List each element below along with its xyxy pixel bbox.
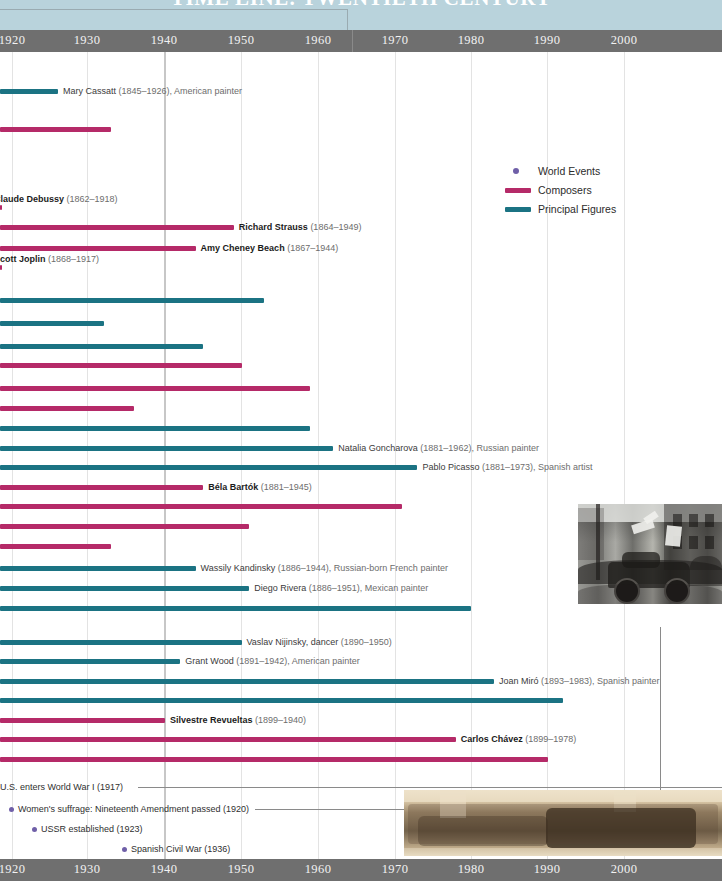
lifespan-bar[interactable] — [0, 524, 249, 529]
lifespan-bar[interactable] — [0, 321, 104, 326]
lifespan-bar[interactable] — [0, 344, 203, 349]
row-label: Pablo Picasso (1881–1973), Spanish artis… — [422, 460, 592, 474]
lifespan-bar[interactable] — [0, 127, 111, 132]
row-label-dates: (1867–1944) — [287, 243, 338, 253]
header-outline-box — [0, 9, 348, 31]
axis-tick-1980: 1980 — [458, 862, 485, 877]
timeline-row[interactable] — [0, 122, 722, 136]
row-label-dates: (1868–1917) — [48, 254, 99, 264]
timeline-row[interactable] — [0, 752, 722, 766]
timeline-page: TIME LINE: TWENTIETH CENTURY 19201930194… — [0, 0, 722, 885]
row-label: Scott Joplin (1868–1917) — [0, 252, 99, 266]
axis-tick-1950: 1950 — [228, 862, 255, 877]
legend: World EventsComposersPrincipal Figures — [505, 162, 685, 219]
lifespan-bar[interactable] — [0, 606, 471, 611]
row-label-name: Béla Bartók — [208, 482, 261, 492]
lifespan-bar[interactable] — [0, 737, 456, 742]
timeline-row[interactable]: Natalia Goncharova (1881–1962), Russian … — [0, 441, 722, 455]
timeline-row[interactable] — [0, 381, 722, 395]
world-event-dot — [122, 847, 127, 852]
row-label-name: Amy Cheney Beach — [201, 243, 288, 253]
axis-tick-1970: 1970 — [382, 862, 409, 877]
row-label: Natalia Goncharova (1881–1962), Russian … — [338, 441, 539, 455]
timeline-row[interactable]: Amy Cheney Beach (1867–1944) — [0, 241, 722, 255]
legend-item[interactable]: World Events — [505, 162, 685, 181]
timeline-row[interactable]: Béla Bartók (1881–1945) — [0, 480, 722, 494]
timeline-row[interactable] — [0, 339, 722, 353]
timeline-row[interactable]: Carlos Chávez (1899–1978) — [0, 732, 722, 746]
timeline-row[interactable]: Vaslav Nijinsky, dancer (1890–1950) — [0, 635, 722, 649]
timeline-row[interactable] — [0, 358, 722, 372]
lifespan-bar[interactable] — [0, 465, 417, 470]
row-label: Mary Cassatt (1845–1926), American paint… — [63, 84, 242, 98]
lifespan-bar[interactable] — [0, 679, 494, 684]
group-portrait-photo — [404, 790, 722, 856]
lifespan-bar[interactable] — [0, 718, 165, 723]
lifespan-bar[interactable] — [0, 485, 203, 490]
lifespan-bar[interactable] — [0, 757, 548, 762]
axis-top: 192019301940195019601970198019902000 — [0, 30, 722, 52]
axis-tick-1920: 1920 — [0, 862, 25, 877]
lifespan-bar[interactable] — [0, 225, 234, 230]
row-label: Diego Rivera (1886–1951), Mexican painte… — [254, 581, 428, 595]
world-event-leader-line — [138, 787, 722, 788]
row-label-dates: (1886–1951), Mexican painter — [309, 583, 429, 593]
row-label-name: Richard Strauss — [239, 222, 311, 232]
lifespan-bar[interactable] — [0, 386, 310, 391]
timeline-row[interactable] — [0, 421, 722, 435]
legend-swatch-bar-icon — [505, 188, 531, 193]
axis-tick-2000: 2000 — [611, 33, 638, 48]
timeline-row[interactable] — [0, 693, 722, 707]
lifespan-bar[interactable] — [0, 544, 111, 549]
lifespan-bar[interactable] — [0, 406, 134, 411]
timeline-row[interactable] — [0, 293, 722, 307]
lifespan-bar[interactable] — [0, 246, 196, 251]
row-label-name: Vaslav Nijinsky, dancer — [247, 637, 341, 647]
callout-line-header-box — [352, 30, 353, 52]
timeline-row[interactable]: Joan Miró (1893–1983), Spanish painter — [0, 674, 722, 688]
legend-item[interactable]: Principal Figures — [505, 200, 685, 219]
lifespan-bar[interactable] — [0, 504, 402, 509]
lifespan-bar[interactable] — [0, 659, 180, 664]
timeline-row[interactable]: Grant Wood (1891–1942), American painter — [0, 654, 722, 668]
lifespan-bar[interactable] — [0, 698, 563, 703]
axis-tick-2000: 2000 — [611, 862, 638, 877]
axis-tick-1930: 1930 — [74, 862, 101, 877]
row-label-dates: (1886–1944), Russian-born French painter — [278, 563, 448, 573]
row-label-dates: (1862–1918) — [67, 194, 118, 204]
timeline-row[interactable]: Scott Joplin (1868–1917) — [0, 260, 722, 274]
row-label: Carlos Chávez (1899–1978) — [461, 732, 577, 746]
row-label: Grant Wood (1891–1942), American painter — [185, 654, 359, 668]
row-label-dates: (1881–1945) — [261, 482, 312, 492]
row-label-dates: (1899–1940) — [255, 715, 306, 725]
lifespan-bar[interactable] — [0, 298, 264, 303]
timeline-row[interactable]: Pablo Picasso (1881–1973), Spanish artis… — [0, 460, 722, 474]
row-label-dates: (1899–1978) — [525, 734, 576, 744]
row-label-name: Grant Wood — [185, 656, 236, 666]
world-event-label: Women's suffrage: Nineteenth Amendment p… — [18, 802, 249, 816]
header-band: TIME LINE: TWENTIETH CENTURY — [0, 0, 722, 30]
timeline-row[interactable] — [0, 401, 722, 415]
row-label-name: Mary Cassatt — [63, 86, 119, 96]
street-scene-photo — [578, 504, 722, 604]
timeline-row[interactable]: Silvestre Revueltas (1899–1940) — [0, 713, 722, 727]
row-label-name: Claude Debussy — [0, 194, 67, 204]
lifespan-bar[interactable] — [0, 426, 310, 431]
lifespan-bar[interactable] — [0, 363, 242, 368]
row-label-dates: (1881–1973), Spanish artist — [482, 462, 593, 472]
lifespan-bar[interactable] — [0, 446, 333, 451]
axis-tick-1980: 1980 — [458, 33, 485, 48]
axis-tick-1960: 1960 — [305, 862, 332, 877]
timeline-row[interactable]: Mary Cassatt (1845–1926), American paint… — [0, 84, 722, 98]
lifespan-bar[interactable] — [0, 89, 58, 94]
axis-tick-1920: 1920 — [0, 33, 25, 48]
axis-tick-1990: 1990 — [534, 862, 561, 877]
lifespan-bar[interactable] — [0, 640, 242, 645]
timeline-row[interactable]: Richard Strauss (1864–1949) — [0, 220, 722, 234]
lifespan-bar[interactable] — [0, 566, 196, 571]
legend-item[interactable]: Composers — [505, 181, 685, 200]
lifespan-bar[interactable] — [0, 586, 249, 591]
timeline-row[interactable] — [0, 316, 722, 330]
row-label: Amy Cheney Beach (1867–1944) — [201, 241, 339, 255]
world-event-label: Spanish Civil War (1936) — [131, 842, 230, 856]
